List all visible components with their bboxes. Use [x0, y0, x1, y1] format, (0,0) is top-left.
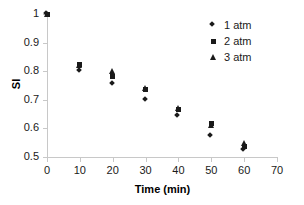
triangle-icon [210, 54, 216, 60]
legend-item-1-atm: 1 atm [213, 17, 291, 33]
legend-item-2-atm: 2 atm [213, 33, 291, 49]
x-tick-mark [146, 158, 147, 162]
y-tick-label: 0.5 [9, 151, 39, 162]
x-tick-label: 70 [264, 165, 290, 176]
x-axis-title: Time (min) [47, 183, 278, 195]
x-tick-label: 20 [100, 165, 126, 176]
legend-label: 3 atm [224, 49, 252, 65]
x-tick-mark [211, 158, 212, 162]
x-tick-mark [277, 158, 278, 162]
x-tick-mark [244, 158, 245, 162]
triangle-icon [142, 85, 148, 91]
legend-label: 2 atm [224, 33, 252, 49]
x-tick-mark [178, 158, 179, 162]
triangle-icon [208, 122, 214, 128]
chart-legend: 1 atm2 atm3 atm [213, 17, 291, 65]
square-icon [211, 39, 216, 44]
y-axis-title: SI [10, 54, 22, 114]
legend-label: 1 atm [224, 17, 252, 33]
legend-item-3-atm: 3 atm [213, 49, 291, 65]
x-tick-mark [47, 158, 48, 162]
triangle-icon [76, 62, 82, 68]
x-tick-mark [80, 158, 81, 162]
x-tick-label: 30 [133, 165, 159, 176]
x-tick-label: 60 [231, 165, 257, 176]
x-tick-label: 40 [165, 165, 191, 176]
triangle-icon [175, 105, 181, 111]
y-tick-label: 0.6 [9, 122, 39, 133]
triangle-icon [109, 68, 115, 74]
triangle-icon [44, 11, 50, 17]
x-tick-mark [113, 158, 114, 162]
triangle-icon [241, 140, 247, 146]
x-tick-label: 50 [198, 165, 224, 176]
scatter-chart: 0.50.60.70.80.91 010203040506070 SI Time… [0, 0, 304, 205]
x-tick-label: 0 [34, 165, 60, 176]
y-tick-label: 0.9 [9, 37, 39, 48]
x-tick-label: 10 [67, 165, 93, 176]
square-icon [110, 74, 115, 79]
y-tick-label: 1 [9, 8, 39, 19]
